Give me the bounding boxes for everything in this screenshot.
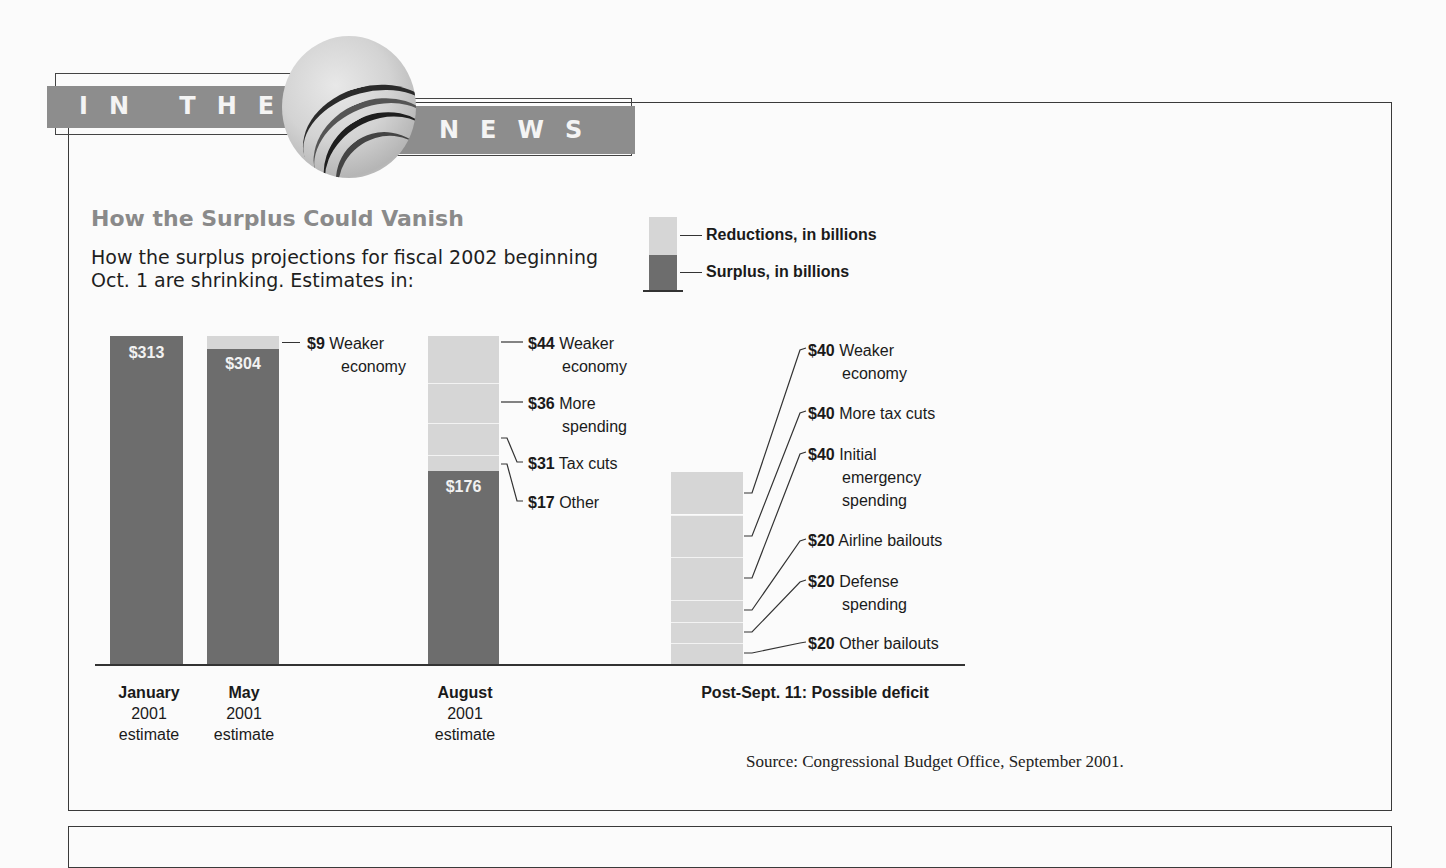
bar-postsept-airline-bailouts — [671, 600, 743, 622]
annotation-august-other: $17 Other — [528, 491, 599, 514]
chart-title: How the Surplus Could Vanish — [91, 206, 464, 231]
bar-postsept-emergency-spending — [671, 557, 743, 600]
bar-august-reduction-tax-cuts — [428, 423, 499, 455]
legend-swatch-surplus — [649, 255, 677, 290]
banner-left: IN THE — [47, 86, 307, 128]
annotation-may-weaker-economy: $9 Weaker economy — [307, 332, 406, 378]
bar-january-surplus: $313 — [110, 336, 183, 665]
bar-value: $176 — [428, 478, 499, 496]
bar-postsept-defense-spending — [671, 622, 743, 643]
leader-line — [282, 342, 300, 343]
x-label-january: January2001estimate — [100, 682, 198, 745]
legend-label-reductions: Reductions, in billions — [706, 226, 877, 244]
source-note: Source: Congressional Budget Office, Sep… — [746, 752, 1124, 772]
bar-august-reduction-weaker-economy — [428, 336, 499, 383]
bar-postsept-other-bailouts — [671, 643, 743, 665]
banner-right: NEWS — [395, 106, 635, 154]
annotation-postsept-other-bailouts: $20 Other bailouts — [808, 632, 939, 655]
next-box-frame — [68, 826, 1392, 868]
annotation-postsept-weaker-economy: $40 Weaker economy — [808, 339, 907, 385]
legend-leader-surplus — [680, 272, 702, 273]
annotation-august-weaker-economy: $44 Weaker economy — [528, 332, 627, 378]
legend-label-surplus: Surplus, in billions — [706, 263, 849, 281]
bar-august-reduction-other — [428, 455, 499, 471]
bar-postsept-weaker-economy — [671, 472, 743, 514]
bar-value: $313 — [110, 344, 183, 362]
bar-postsept-more-tax-cuts — [671, 515, 743, 557]
x-label-may: May2001estimate — [195, 682, 293, 745]
annotation-postsept-defense-spending: $20 Defense spending — [808, 570, 907, 616]
annotation-august-more-spending: $36 More spending — [528, 392, 627, 438]
annotation-postsept-more-tax-cuts: $40 More tax cuts — [808, 402, 935, 425]
postsept-leader-lines — [740, 340, 810, 660]
newspaper-icon — [282, 36, 416, 178]
banner-right-text: NEWS — [439, 116, 603, 144]
x-axis-baseline — [95, 664, 965, 666]
annotation-postsept-emergency-spending: $40 Initial emergency spending — [808, 443, 921, 512]
annotation-postsept-airline-bailouts: $20 Airline bailouts — [808, 529, 942, 552]
legend-baseline — [643, 290, 683, 292]
bar-may-surplus: $304 — [207, 349, 279, 665]
bar-value: $304 — [207, 355, 279, 373]
bar-august-surplus: $176 — [428, 471, 499, 665]
chart-subtitle: How the surplus projections for fiscal 2… — [91, 246, 631, 292]
legend-swatch-reductions — [649, 217, 677, 255]
x-label-post-sept: Post-Sept. 11: Possible deficit — [660, 682, 970, 703]
x-label-august: August2001estimate — [416, 682, 514, 745]
bar-august-reduction-more-spending — [428, 383, 499, 423]
legend-leader-reductions — [680, 235, 702, 236]
annotation-august-tax-cuts: $31 Tax cuts — [528, 452, 618, 475]
banner-left-text: IN THE — [79, 92, 295, 120]
bar-may-reduction-weaker-economy — [207, 336, 279, 349]
